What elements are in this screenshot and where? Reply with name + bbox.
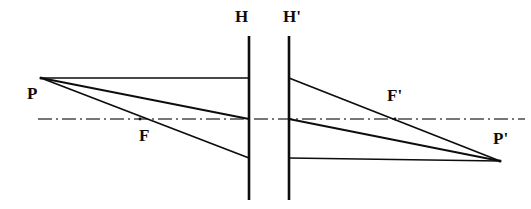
object-point-marker: [39, 76, 42, 79]
ray-lower-emergent: [289, 158, 500, 161]
label-object-point: P: [27, 85, 37, 102]
label-back-focal-point: F': [387, 87, 402, 104]
back-focal-point-marker: [394, 118, 397, 121]
label-principal-plane-h-prime: H': [283, 8, 301, 25]
ray-middle-emergent: [289, 119, 500, 161]
front-focal-point-marker: [139, 118, 142, 121]
label-image-point: P': [493, 130, 508, 147]
label-front-focal-point: F: [139, 127, 149, 144]
diagram-canvas: [0, 0, 531, 209]
label-principal-plane-h: H: [235, 8, 248, 25]
optical-ray-diagram: P F H H' F' P': [0, 0, 531, 209]
ray-lower-incident-through-f: [41, 78, 249, 158]
image-point-marker: [498, 159, 501, 162]
ray-middle-incident: [41, 78, 249, 119]
